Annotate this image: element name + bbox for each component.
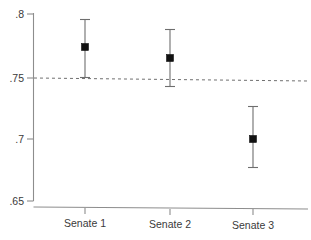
x-tick-label-senate-3: Senate 3 (232, 219, 274, 231)
chart-background (0, 0, 311, 240)
x-tick-label-senate-1: Senate 1 (64, 217, 106, 229)
point-marker-senate-1 (82, 44, 89, 51)
coefficient-plot: .8 .75 .7 .65 (0, 0, 311, 240)
y-tick-label-0: .8 (15, 8, 24, 20)
x-tick-label-senate-2: Senate 2 (149, 218, 191, 230)
y-tick-label-3: .65 (9, 195, 24, 207)
point-marker-senate-3 (250, 136, 257, 143)
point-marker-senate-2 (167, 55, 174, 62)
y-tick-label-1: .75 (9, 72, 24, 84)
chart-canvas: .8 .75 .7 .65 (0, 0, 311, 240)
y-tick-label-2: .7 (15, 133, 24, 145)
